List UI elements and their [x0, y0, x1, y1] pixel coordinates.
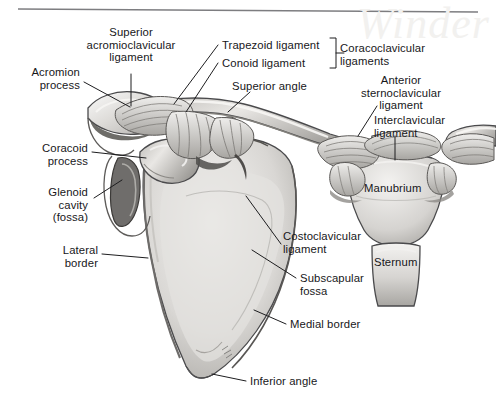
leader-coracoid-process	[92, 152, 146, 158]
label-anterior-sternoclavicular-ligament: Anterior sternoclavicular ligament	[352, 74, 450, 112]
label-glenoid-cavity-fossa: Glenoid cavity (fossa)	[24, 186, 88, 224]
label-coracoid-process: Coracoid process	[16, 142, 88, 167]
label-trapezoid-ligament: Trapezoid ligament	[222, 39, 332, 52]
label-inferior-angle: Inferior angle	[250, 375, 336, 388]
leader-inferior-angle	[212, 374, 246, 381]
label-superior-angle: Superior angle	[232, 80, 322, 93]
label-acromion-process: Acromion process	[8, 66, 80, 91]
anatomy-figure: Winder	[0, 0, 496, 414]
label-lateral-border: Lateral border	[40, 244, 98, 269]
label-manubrium: Manubrium	[364, 182, 438, 195]
leader-lateral-border	[102, 254, 148, 258]
label-conoid-ligament: Conoid ligament	[222, 57, 332, 70]
top-rule	[18, 9, 478, 12]
label-sternum: Sternum	[374, 256, 432, 269]
label-coracoclavicular-ligaments: Coracoclavicular ligaments	[340, 42, 444, 67]
label-superior-acromioclavicular-ligament: Superior acromioclavicular ligament	[72, 26, 190, 64]
label-subscapular-fossa: Subscapular fossa	[300, 272, 382, 297]
label-costoclavicular-ligament: Costoclavicular ligament	[283, 230, 379, 255]
label-interclavicular-ligament: Interclavicular ligament	[374, 114, 464, 139]
label-medial-border: Medial border	[290, 318, 378, 331]
